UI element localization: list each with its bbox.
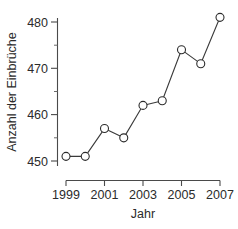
x-tick-label-2005: 2005 xyxy=(168,188,196,202)
y-tick-label-480: 480 xyxy=(27,16,48,30)
x-tick-label-2001: 2001 xyxy=(91,188,119,202)
x-tick-label-2007: 2007 xyxy=(206,188,234,202)
x-tick-label-2003: 2003 xyxy=(129,188,157,202)
data-point xyxy=(120,134,128,142)
data-markers-group xyxy=(62,13,224,160)
y-tick-label-460: 460 xyxy=(27,108,48,122)
data-point xyxy=(81,152,89,160)
y-tick-label-450: 450 xyxy=(27,155,48,169)
data-point xyxy=(197,60,205,68)
data-point xyxy=(178,46,186,54)
data-point xyxy=(158,97,166,105)
data-series-line xyxy=(70,21,218,156)
x-axis-ticks xyxy=(66,181,220,187)
data-point xyxy=(139,101,147,109)
data-point xyxy=(216,13,224,21)
line-chart: 480 470 460 450 1999 2001 2003 2005 2007… xyxy=(0,0,238,229)
y-axis-title: Anzahl der Einbrüche xyxy=(5,32,19,152)
x-tick-label-1999: 1999 xyxy=(52,188,80,202)
x-axis-title: Jahr xyxy=(131,207,155,221)
data-point xyxy=(62,152,70,160)
chart-canvas: 480 470 460 450 1999 2001 2003 2005 2007… xyxy=(0,0,238,229)
y-tick-label-470: 470 xyxy=(27,62,48,76)
data-point xyxy=(101,125,109,133)
